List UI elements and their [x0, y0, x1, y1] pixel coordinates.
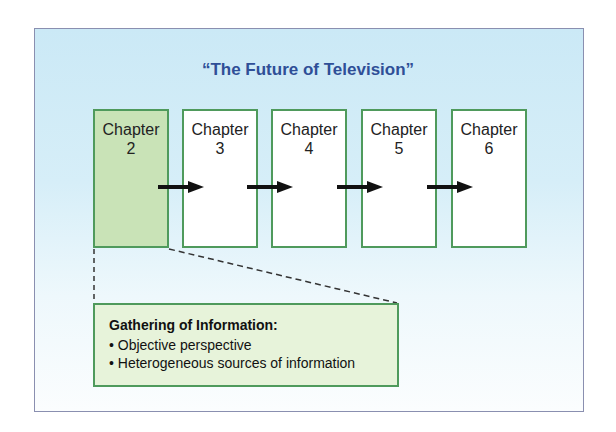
callout-item: • Heterogeneous sources of information: [109, 354, 397, 372]
callout-box: Gathering of Information: • Objective pe…: [93, 303, 399, 387]
callout-item: • Objective perspective: [109, 336, 397, 354]
callout-title: Gathering of Information:: [109, 317, 397, 333]
